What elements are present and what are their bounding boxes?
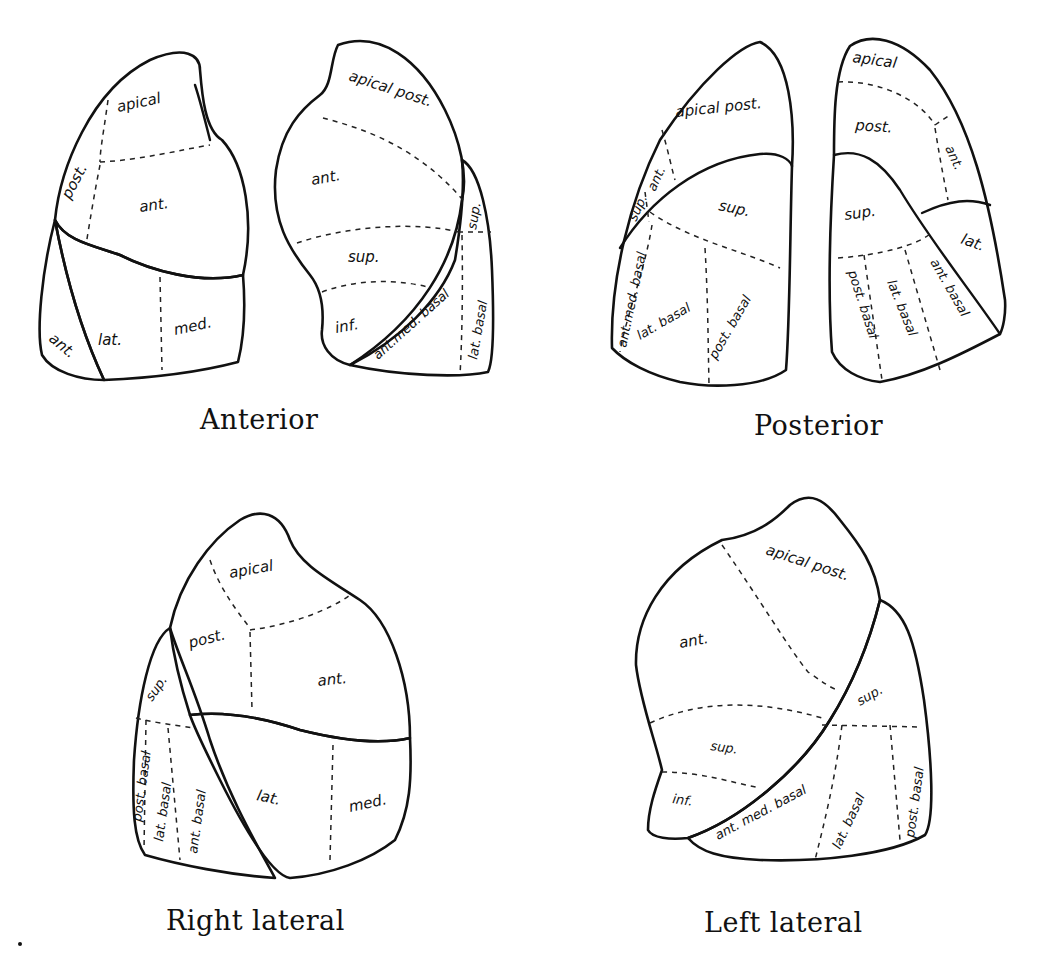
label-apical: apical: [851, 48, 898, 72]
label-inf: inf.: [672, 791, 694, 809]
label-sup: sup.: [348, 248, 380, 266]
label-lat-basal: lat. basal: [884, 278, 920, 339]
label-lat-basal: lat. basal: [151, 781, 174, 842]
label-ant: ant.: [310, 166, 342, 189]
label-sup-lower: sup.: [854, 682, 885, 709]
label-ant-upper: ant.: [138, 194, 170, 216]
lung-segments-diagram: apical post. ant. lat. med. ant. apical …: [0, 0, 1039, 962]
label-sup-lower: sup.: [464, 201, 484, 231]
label-lat-basal: lat. basal: [829, 791, 868, 852]
label-inf: inf.: [334, 315, 360, 337]
label-ant-med-basal: ant. med. basal: [712, 782, 809, 843]
label-lat: lat.: [959, 230, 988, 255]
right-lateral-lung: apical post. ant. sup. post. basal lat. …: [129, 514, 411, 878]
label-apical: apical: [115, 89, 163, 116]
label-ant-basal: ant. basal: [185, 788, 209, 854]
label-ant: ant.: [317, 669, 348, 690]
label-apical-post: apical post.: [764, 541, 852, 585]
label-ant-lower: ant.: [45, 329, 79, 362]
caption-left-lateral: Left lateral: [704, 907, 863, 938]
posterior-right-lung: apical post. ant. sup. lat. post. basal …: [830, 39, 1005, 382]
left-lateral-lung: apical post. ant. sup. inf. sup. ant. me…: [636, 498, 931, 861]
label-post-basal: post. basal: [845, 267, 882, 340]
label-ant: ant.: [678, 629, 710, 652]
label-post-basal: post. basal: [705, 292, 754, 362]
label-sup-upper: sup.: [625, 192, 650, 223]
anterior-left-lung: apical post. ant. sup. inf. ant.med. bas…: [275, 41, 493, 375]
label-post: post.: [854, 116, 893, 137]
label-apical-post: apical post.: [675, 94, 763, 121]
label-post: post.: [186, 625, 227, 652]
label-lat: lat.: [98, 331, 122, 349]
label-lat-basal: lat. basal: [634, 300, 693, 343]
label-med: med.: [347, 790, 388, 816]
label-apical: apical: [228, 556, 276, 582]
stray-dot: [18, 942, 22, 946]
label-ant-med-basal: ant.med. basal: [370, 286, 453, 362]
label-sup-upper: sup.: [710, 738, 739, 757]
caption-posterior: Posterior: [754, 410, 883, 441]
label-med: med.: [172, 313, 213, 339]
label-lat-basal: lat. basal: [465, 299, 490, 361]
caption-anterior: Anterior: [200, 404, 318, 435]
label-sup: sup.: [843, 202, 877, 224]
label-post-basal: post. basal: [902, 766, 927, 840]
label-sup-lower: sup.: [717, 196, 752, 220]
label-lat: lat.: [255, 786, 282, 809]
posterior-left-lung: apical post. ant. sup. sup. ant.med. bas…: [612, 42, 793, 386]
label-ant: ant.: [942, 143, 966, 172]
anterior-right-lung: apical post. ant. lat. med. ant.: [40, 53, 248, 380]
caption-right-lateral: Right lateral: [166, 905, 345, 936]
